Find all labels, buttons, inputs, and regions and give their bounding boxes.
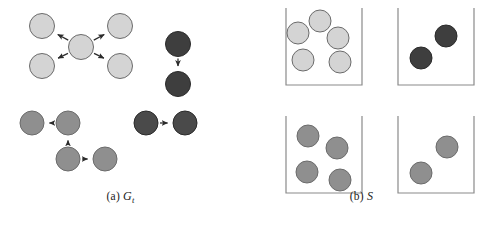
caption-a-symbol: G <box>123 189 132 203</box>
graph-node <box>134 111 158 135</box>
bin-item-circle <box>410 162 432 184</box>
graph-node <box>173 111 197 135</box>
graph-node <box>20 111 44 135</box>
bin-outline <box>398 8 474 85</box>
graph-edges-layer <box>49 34 178 159</box>
bin-item-circle <box>326 137 348 159</box>
graph-node <box>30 14 55 39</box>
graph-node <box>108 54 133 79</box>
graph-node <box>166 72 191 97</box>
caption-panel-a: (a) Gt <box>0 189 241 205</box>
bin-top-left <box>286 8 362 85</box>
graph-node <box>56 111 80 135</box>
caption-a-subscript: t <box>132 195 135 205</box>
graph-node <box>166 32 191 57</box>
panel-b-bins: (b) S <box>241 0 482 225</box>
graph-node <box>56 147 80 171</box>
panel-a-graph: (a) Gt <box>0 0 241 225</box>
bin-bottom-right <box>398 116 474 193</box>
bin-top-right <box>398 8 474 85</box>
bin-item-circle <box>436 136 458 158</box>
bin-item-circle <box>410 47 432 69</box>
caption-b-prefix: (b) <box>350 190 364 202</box>
bin-item-circle <box>296 161 318 183</box>
bin-item-circle <box>329 51 351 73</box>
figure-root: (a) Gt (b) S <box>0 0 482 225</box>
graph-edge-arrow <box>58 53 68 58</box>
graph-node <box>30 54 55 79</box>
graph-edge-arrow <box>58 34 68 40</box>
bin-item-circle <box>309 10 331 32</box>
caption-panel-b: (b) S <box>241 189 482 204</box>
graph-node <box>69 35 94 60</box>
bin-item-circle <box>327 27 349 49</box>
bin-item-circle <box>292 49 314 71</box>
graph-edge-arrow <box>94 34 104 40</box>
graph-node <box>93 147 117 171</box>
bin-item-circle <box>287 22 309 44</box>
graph-nodes-layer <box>20 14 197 172</box>
graph-edge-arrow <box>94 53 104 58</box>
bin-item-circle <box>297 125 319 147</box>
caption-a-prefix: (a) <box>107 190 120 202</box>
bin-item-circle <box>435 25 457 47</box>
caption-b-symbol: S <box>367 189 373 203</box>
bin-outline <box>398 116 474 193</box>
bin-bottom-left <box>286 116 362 193</box>
graph-node <box>108 14 133 39</box>
bin-item-circle <box>329 169 351 191</box>
